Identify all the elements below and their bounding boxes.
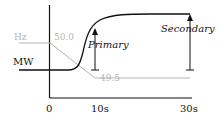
primary-arrowhead — [92, 28, 98, 35]
frequency-response-diagram: Hz 50.0 49.5 MW Primary Secondary 0 10s … — [0, 0, 218, 119]
hz-end-label: 49.5 — [100, 73, 120, 83]
secondary-arrowhead — [187, 14, 193, 21]
hz-label: Hz — [14, 32, 27, 42]
secondary-label: Secondary — [161, 23, 215, 34]
primary-label: Primary — [87, 39, 129, 50]
x-tick-30s: 30s — [180, 103, 198, 114]
hz-start-label: 50.0 — [54, 32, 74, 42]
mw-label: MW — [13, 56, 34, 67]
x-tick-10s: 10s — [91, 103, 109, 114]
x-tick-0: 0 — [46, 103, 52, 114]
